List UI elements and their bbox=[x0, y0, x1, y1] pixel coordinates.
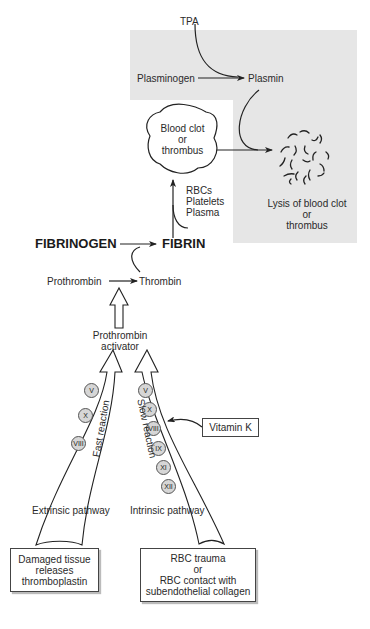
diagram-canvas bbox=[0, 0, 370, 629]
prothrombin-label: Prothrombin bbox=[47, 276, 101, 287]
blood-clot-label: Blood clot or thrombus bbox=[155, 123, 210, 156]
intrinsic-trigger-box: RBC trauma or RBC contact with subendoth… bbox=[140, 548, 256, 602]
plasmin-label: Plasmin bbox=[248, 73, 284, 84]
vitamin-k-arrow bbox=[168, 419, 202, 427]
intrinsic-pathway-label: Intrinsic pathway bbox=[130, 505, 204, 516]
fibrin-label: FIBRIN bbox=[162, 237, 205, 251]
intrinsic-factor-xii: XII bbox=[161, 479, 176, 494]
extrinsic-trigger-box: Damaged tissue releases thromboplastin bbox=[10, 548, 99, 592]
activator-hollow-arrow bbox=[110, 288, 128, 328]
extrinsic-factor-v: V bbox=[84, 383, 99, 398]
thrombin-curve bbox=[132, 247, 140, 272]
clot-components-label: RBCs Platelets Plasma bbox=[186, 185, 224, 218]
thrombin-label: Thrombin bbox=[139, 276, 181, 287]
tpa-label: TPA bbox=[180, 16, 199, 27]
plasminogen-label: Plasminogen bbox=[137, 73, 195, 84]
fibrinogen-label: FIBRINOGEN bbox=[35, 237, 117, 251]
prothrombin-activator-label: Prothrombin activator bbox=[88, 330, 152, 352]
intrinsic-factor-xi: XI bbox=[156, 460, 171, 475]
extrinsic-factor-viii: VIII bbox=[71, 436, 86, 451]
intrinsic-factor-v: V bbox=[138, 383, 153, 398]
extrinsic-pathway-label: Extrinsic pathway bbox=[32, 505, 110, 516]
vitamin-k-box: Vitamin K bbox=[202, 418, 259, 437]
extrinsic-factor-x: X bbox=[78, 408, 93, 423]
lysis-label: Lysis of blood clot or thrombus bbox=[262, 198, 352, 231]
